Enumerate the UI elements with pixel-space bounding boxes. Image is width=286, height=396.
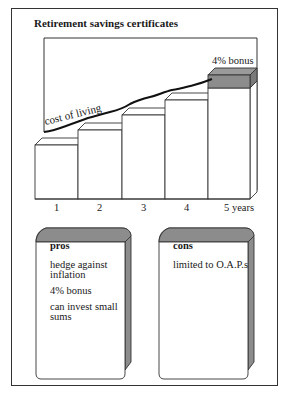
cons-card-shape <box>157 226 257 381</box>
x-label-5-years: 5 years <box>224 202 254 213</box>
cons-item: limited to O.A.P.s <box>173 260 248 270</box>
pros-title: pros <box>50 240 70 251</box>
cons-title: cons <box>173 240 193 251</box>
x-label-4: 4 <box>184 202 189 213</box>
pros-item: can invest small sums <box>50 302 125 322</box>
x-label-2: 2 <box>97 202 102 213</box>
bonus-label: 4% bonus <box>212 55 254 66</box>
pros-item: hedge against inflation <box>50 260 125 280</box>
pros-item: 4% bonus <box>50 286 125 296</box>
x-label-1: 1 <box>54 202 59 213</box>
bar-year-2 <box>78 123 129 199</box>
cons-list: limited to O.A.P.s <box>173 260 248 276</box>
bar-year-5 <box>208 81 257 199</box>
x-label-3: 3 <box>141 202 146 213</box>
bar-year-1 <box>35 138 85 199</box>
cons-card: cons limited to O.A.P.s <box>157 226 257 381</box>
bar-year-3 <box>122 108 172 199</box>
bonus-block <box>208 68 257 88</box>
bar-year-4 <box>165 93 215 199</box>
pros-list: hedge against inflation 4% bonus can inv… <box>50 260 125 328</box>
pros-card: pros hedge against inflation 4% bonus ca… <box>34 226 134 381</box>
